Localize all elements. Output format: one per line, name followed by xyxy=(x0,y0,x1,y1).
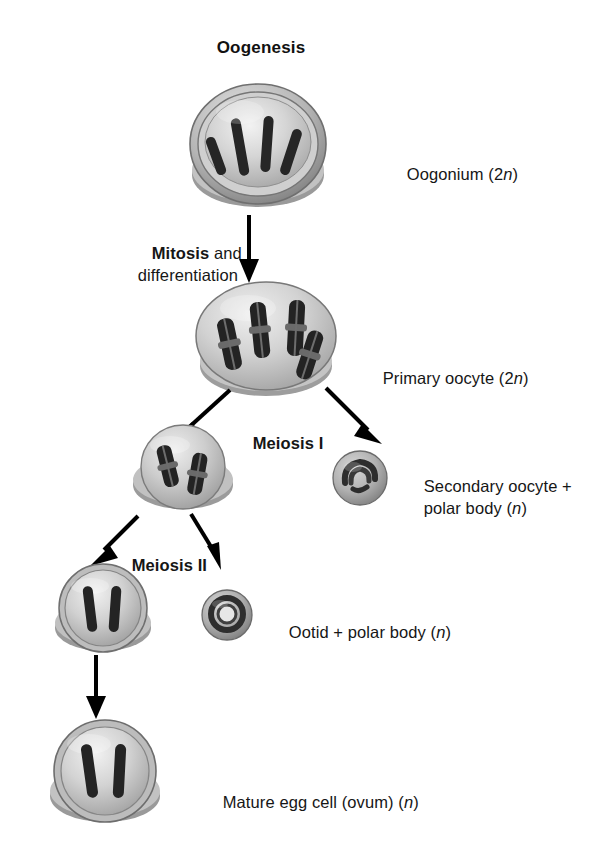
label-primary-oocyte-ploidy: n xyxy=(514,369,523,387)
arrow-maturation xyxy=(81,655,111,721)
arrow-mitosis xyxy=(234,215,264,285)
label-ootid-paren: ) xyxy=(445,623,451,641)
label-ootid: Ootid + polar body (n) xyxy=(270,601,451,664)
label-primary-oocyte: Primary oocyte (2n) xyxy=(364,347,529,410)
label-oogonium-paren: ) xyxy=(513,165,519,183)
arrow-meiosis-ii-right xyxy=(185,512,241,574)
label-polar-body-text: polar body ( xyxy=(424,499,512,517)
cell-secondary-oocyte xyxy=(128,423,240,523)
label-oogonium: Oogonium (2n) xyxy=(388,143,518,206)
title-text: Oogenesis xyxy=(217,38,306,57)
cell-second-polar-body xyxy=(198,586,256,642)
oogenesis-diagram: Oogenesis xyxy=(0,0,614,861)
cell-mature-egg xyxy=(42,718,168,830)
label-mature-egg-paren: ) xyxy=(413,793,419,811)
label-primary-oocyte-text: Primary oocyte (2 xyxy=(383,369,514,387)
label-ootid-ploidy: n xyxy=(436,623,445,641)
label-secondary-paren: ) xyxy=(521,499,527,517)
label-primary-oocyte-paren: ) xyxy=(523,369,529,387)
label-oogonium-text: Oogonium (2 xyxy=(407,165,503,183)
label-mature-egg: Mature egg cell (ovum) (n) xyxy=(204,771,419,834)
cell-ootid xyxy=(48,562,158,662)
label-mature-egg-ploidy: n xyxy=(404,793,413,811)
label-secondary-oocyte-line2: polar body (n) xyxy=(405,477,527,540)
label-oogonium-ploidy: n xyxy=(503,165,512,183)
label-mature-egg-text: Mature egg cell (ovum) ( xyxy=(223,793,404,811)
label-meiosis-i: Meiosis I xyxy=(234,412,323,475)
arrow-meiosis-i-right xyxy=(318,386,388,448)
page-title: Oogenesis xyxy=(0,38,614,58)
label-secondary-ploidy: n xyxy=(512,499,521,517)
cell-first-polar-body xyxy=(329,447,391,507)
cell-oogonium xyxy=(178,72,338,212)
label-ootid-text: Ootid + polar body ( xyxy=(289,623,436,641)
label-meiosis-i-text: Meiosis I xyxy=(253,434,324,452)
cell-primary-oocyte xyxy=(188,278,344,403)
